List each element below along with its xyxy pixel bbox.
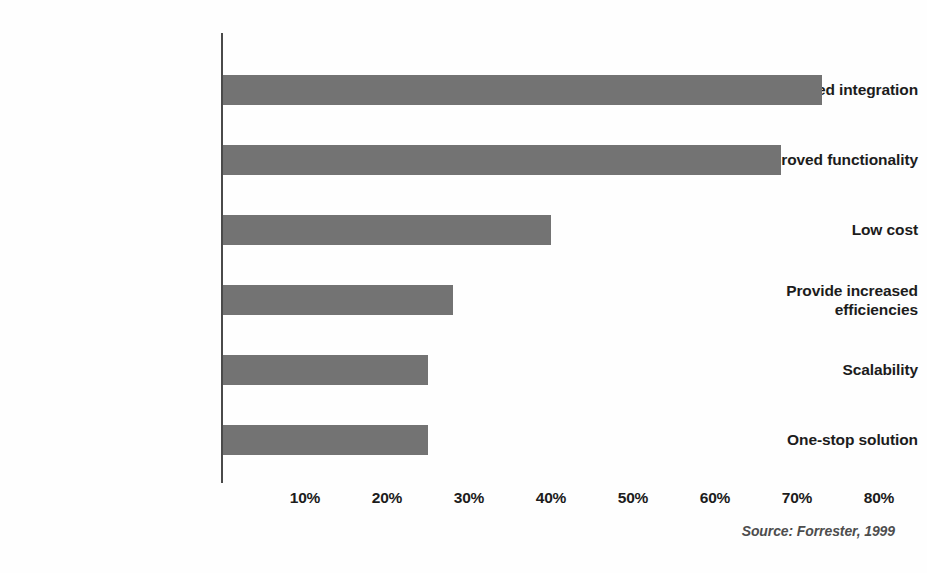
- bar: [223, 425, 428, 455]
- x-axis-tick-label: 40%: [521, 489, 581, 507]
- bar: [223, 215, 551, 245]
- x-axis-tick-label: 30%: [439, 489, 499, 507]
- x-axis-tick-label: 60%: [685, 489, 745, 507]
- bar-row: One-stop solution: [0, 425, 927, 455]
- plot-area: Improved integrationImproved functionali…: [0, 0, 927, 573]
- bar-chart-figure: Improved integrationImproved functionali…: [0, 0, 927, 573]
- x-axis-tick-label: 80%: [849, 489, 909, 507]
- bar: [223, 355, 428, 385]
- x-axis-tick-label: 50%: [603, 489, 663, 507]
- x-axis-tick-label: 10%: [275, 489, 335, 507]
- bar-category-label-line: One-stop solution: [717, 430, 918, 449]
- bar: [223, 285, 453, 315]
- bar-category-label: Provide increasedefficiencies: [717, 281, 927, 319]
- bar-row: Provide increasedefficiencies: [0, 285, 927, 315]
- bar-row: Low cost: [0, 215, 927, 245]
- bar-category-label: Low cost: [717, 220, 927, 239]
- bar: [223, 75, 822, 105]
- x-axis-tick-label: 20%: [357, 489, 417, 507]
- bar-category-label-line: Low cost: [717, 220, 918, 239]
- bar-category-label-line: Provide increased: [717, 281, 918, 300]
- bar-category-label-line: Scalability: [717, 360, 918, 379]
- x-axis-tick-label: 70%: [767, 489, 827, 507]
- bar-category-label: One-stop solution: [717, 430, 927, 449]
- bar-row: Improved integration: [0, 75, 927, 105]
- bar: [223, 145, 781, 175]
- bar-row: Improved functionality: [0, 145, 927, 175]
- source-note: Source: Forrester, 1999: [742, 523, 895, 539]
- bar-row: Scalability: [0, 355, 927, 385]
- bar-category-label-line: efficiencies: [717, 300, 918, 319]
- bar-category-label: Scalability: [717, 360, 927, 379]
